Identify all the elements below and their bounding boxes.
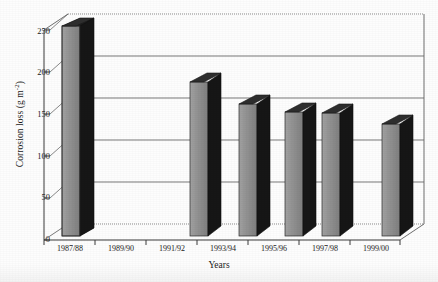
x-tick-label-1999-00: 1999/00 — [350, 244, 402, 253]
chart-3d-frame — [44, 14, 424, 240]
bar-1997-98-a — [285, 103, 316, 236]
bar-1995-96 — [239, 95, 270, 236]
bar-1987-88 — [62, 18, 94, 236]
bar-1999-00 — [382, 115, 413, 236]
x-tick-label-1987-88: 1987/88 — [44, 244, 96, 253]
x-tick-label-1995-96: 1995/96 — [248, 244, 300, 253]
plot-area — [0, 0, 438, 282]
bar-1997-98-b — [322, 104, 353, 236]
x-tick-label-1991-92: 1991/92 — [146, 244, 198, 253]
x-axis-title: Years — [0, 260, 438, 270]
x-tick-label-1993-94: 1993/94 — [197, 244, 249, 253]
x-tick-label-1989-90: 1989/90 — [95, 244, 147, 253]
bar-1993-94 — [190, 73, 221, 236]
corrosion-loss-bar-chart: Corrosion loss (g m-2) 250 200 150 100 5… — [0, 0, 438, 282]
x-tick-label-1997-98: 1997/98 — [299, 244, 351, 253]
